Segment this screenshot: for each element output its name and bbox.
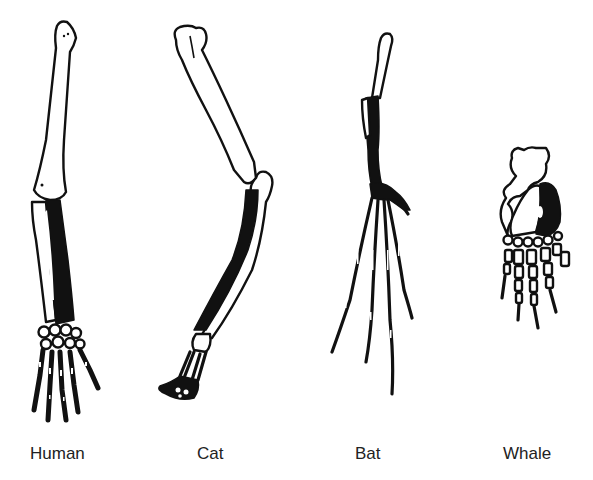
cat-forelimb bbox=[159, 26, 273, 400]
label-cat: Cat bbox=[197, 444, 223, 464]
bat-forelimb bbox=[332, 34, 412, 395]
human-forelimb bbox=[32, 22, 98, 421]
cat-humerus bbox=[175, 26, 256, 184]
bat-digits bbox=[332, 198, 412, 394]
whale-digits bbox=[502, 244, 569, 328]
label-human: Human bbox=[30, 444, 85, 464]
label-bat: Bat bbox=[355, 444, 381, 464]
forelimb-diagram bbox=[0, 0, 593, 480]
bat-humerus bbox=[372, 34, 392, 99]
human-humerus bbox=[34, 22, 76, 201]
whale-forelimb bbox=[501, 147, 569, 328]
label-whale: Whale bbox=[503, 444, 551, 464]
bat-ulna bbox=[362, 98, 370, 138]
human-digits bbox=[34, 350, 98, 420]
cat-paw bbox=[159, 334, 211, 399]
human-carpals bbox=[39, 325, 85, 350]
